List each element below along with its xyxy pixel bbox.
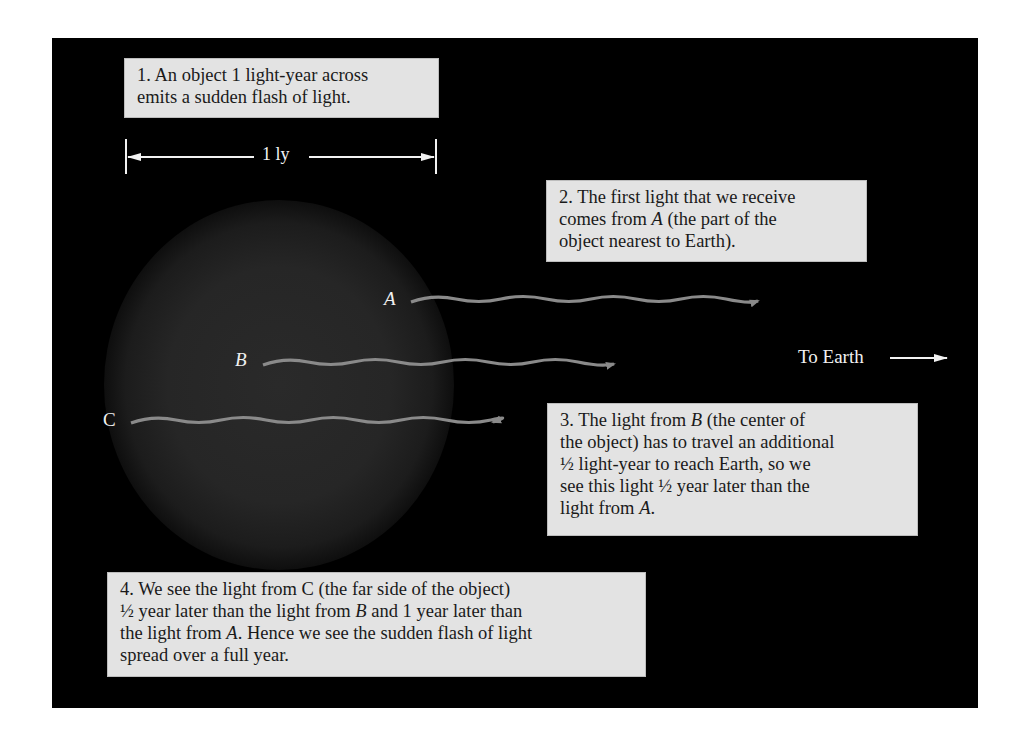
caption-3-line-4: see this light ½ year later than the [560,475,905,497]
caption-text: ½ year later than the light from [120,601,355,621]
caption-3-line-5: light from A. [560,497,905,519]
caption-text: the light from [120,623,226,643]
caption-text: and 1 year later than [367,601,523,621]
caption-text: 3. The light from [560,410,691,430]
caption-italic-a: A [651,209,662,229]
caption-2-line-1: 2. The first light that we receive [559,186,854,208]
point-label-b: B [235,349,247,371]
caption-italic-a: A [226,623,237,643]
light-wave-a [411,297,758,303]
caption-4-line-2: ½ year later than the light from B and 1… [120,600,633,622]
caption-italic-b: B [355,601,366,621]
caption-4-line-4: spread over a full year. [120,644,633,666]
measure-label: 1 ly [262,144,290,165]
to-earth-label: To Earth [798,346,864,368]
caption-letter-c: C [302,579,314,599]
caption-text: . [650,498,655,518]
caption-2-line-3: object nearest to Earth). [559,230,854,252]
caption-text: (the center of [702,410,805,430]
point-label-c: C [103,409,116,431]
caption-1-line-1: 1. An object 1 light-year across [137,64,426,86]
light-wave-c [131,418,503,424]
caption-4: 4. We see the light from C (the far side… [107,572,646,677]
caption-3-line-1: 3. The light from B (the center of [560,409,905,431]
caption-3-line-3: ½ light-year to reach Earth, so we [560,453,905,475]
caption-text: light from [560,498,639,518]
caption-text: 4. We see the light from [120,579,302,599]
caption-italic-a: A [639,498,650,518]
caption-italic-b: B [691,410,702,430]
point-label-a: A [384,288,396,310]
caption-text: (the far side of the object) [314,579,510,599]
caption-4-line-1: 4. We see the light from C (the far side… [120,578,633,600]
caption-1: 1. An object 1 light-year across emits a… [124,58,439,118]
caption-text: (the part of the [663,209,777,229]
light-wave-b [263,360,614,366]
caption-4-line-3: the light from A. Hence we see the sudde… [120,622,633,644]
caption-3-line-2: the object) has to travel an additional [560,431,905,453]
caption-3: 3. The light from B (the center of the o… [547,403,918,536]
caption-text: comes from [559,209,651,229]
caption-text: . Hence we see the sudden flash of light [238,623,532,643]
caption-2: 2. The first light that we receive comes… [546,180,867,262]
caption-2-line-2: comes from A (the part of the [559,208,854,230]
caption-1-line-2: emits a sudden flash of light. [137,86,426,108]
